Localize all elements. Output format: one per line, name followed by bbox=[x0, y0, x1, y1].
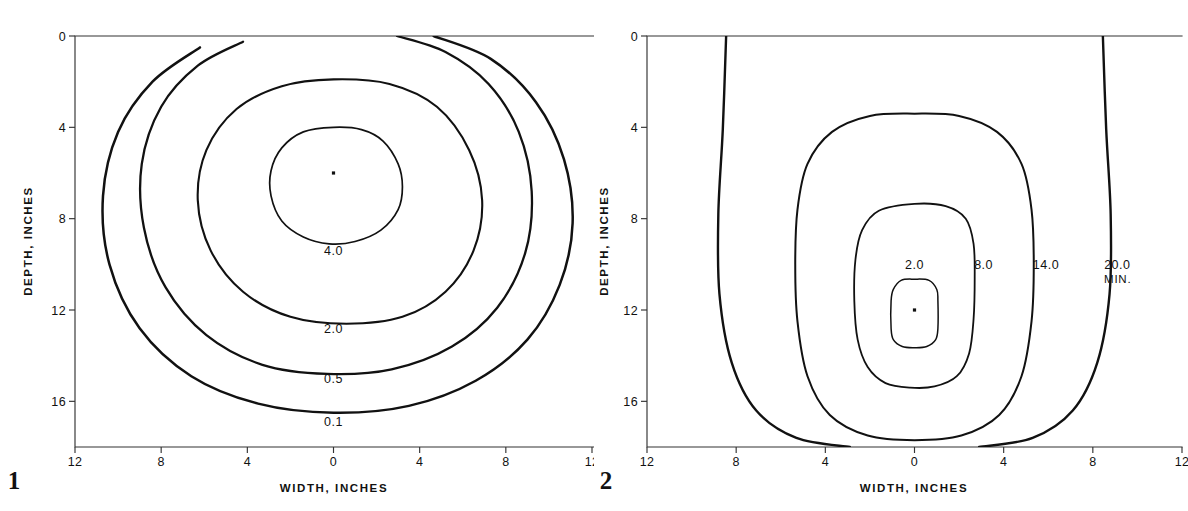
panel-1-center-marker bbox=[332, 171, 335, 174]
panel-2-x-axis-title: WIDTH, INCHES bbox=[860, 482, 968, 494]
panel-1-contours bbox=[103, 36, 573, 413]
panel-1-x-ticks bbox=[75, 447, 592, 453]
contour-label-8.0: 8.0 bbox=[974, 258, 993, 272]
panel-2-y-ticks bbox=[641, 36, 647, 401]
p1-x-tick-label: 12 bbox=[585, 455, 594, 469]
p1-x-tick-label: 4 bbox=[244, 455, 251, 469]
p2-x-tick-label: 8 bbox=[732, 455, 739, 469]
panel-1-y-ticks bbox=[69, 36, 75, 401]
p2-x-tick-label: 4 bbox=[822, 455, 829, 469]
panel-1-x-axis-title: WIDTH, INCHES bbox=[280, 482, 388, 494]
panel-2-x-tick-labels: 128404812 bbox=[640, 455, 1188, 469]
p1-y-tick-label: 8 bbox=[59, 212, 66, 226]
p2-y-tick-label: 16 bbox=[623, 395, 638, 409]
p1-x-tick-label: 8 bbox=[157, 455, 164, 469]
contour-level-2.0 bbox=[891, 279, 938, 348]
contour-level-14.0 bbox=[795, 114, 1034, 441]
panel-2-center-marker bbox=[913, 308, 916, 311]
p1-y-tick-label: 0 bbox=[59, 30, 66, 44]
contour-label-0.5: 0.5 bbox=[324, 372, 343, 386]
panel-2-x-ticks bbox=[647, 447, 1182, 453]
panel-2-axis-lines bbox=[647, 36, 1182, 447]
panel-1-x-tick-labels: 128404812 bbox=[68, 455, 594, 469]
panel-2-axes bbox=[641, 36, 1182, 453]
contour-panel-1: 4.02.00.50.1 128404812 0481216 WIDTH, IN… bbox=[0, 0, 594, 511]
contour-level-20.0 bbox=[979, 36, 1111, 447]
p2-x-tick-label: 12 bbox=[1175, 455, 1188, 469]
contour-level-0.1 bbox=[103, 36, 573, 413]
p1-x-tick-label: 0 bbox=[330, 455, 337, 469]
contour-label-0.1: 0.1 bbox=[324, 415, 343, 429]
panel-2-number: 2 bbox=[600, 467, 613, 494]
panel-1-contour-labels: 4.02.00.50.1 bbox=[324, 244, 343, 429]
contour-level-2.0 bbox=[198, 79, 483, 323]
p1-x-tick-label: 8 bbox=[502, 455, 509, 469]
p2-y-tick-label: 8 bbox=[631, 212, 638, 226]
contour-level-4.0 bbox=[270, 127, 403, 244]
contour-level-8.0 bbox=[854, 204, 975, 389]
contour-label-2.0: 2.0 bbox=[905, 258, 924, 272]
p1-y-tick-label: 12 bbox=[51, 304, 66, 318]
panel-1-y-axis-title: DEPTH, INCHES bbox=[22, 186, 34, 296]
center-point-marker bbox=[913, 308, 916, 311]
p2-x-tick-label: 12 bbox=[640, 455, 655, 469]
p1-x-tick-label: 4 bbox=[416, 455, 423, 469]
p1-y-tick-label: 16 bbox=[51, 395, 66, 409]
panel-1-svg: 4.02.00.50.1 128404812 0481216 WIDTH, IN… bbox=[0, 0, 594, 511]
p2-x-tick-label: 4 bbox=[1000, 455, 1007, 469]
panel-2-contour-labels: 2.08.014.020.0 bbox=[905, 258, 1130, 272]
panel-2-y-tick-labels: 0481216 bbox=[623, 30, 638, 409]
p2-y-tick-label: 0 bbox=[631, 30, 638, 44]
panel-2-y-axis-title: DEPTH, INCHES bbox=[598, 186, 610, 296]
panel-2-contours bbox=[718, 36, 1111, 447]
p1-y-tick-label: 4 bbox=[59, 121, 66, 135]
contour-label-14.0: 14.0 bbox=[1033, 258, 1059, 272]
p2-x-tick-label: 0 bbox=[911, 455, 918, 469]
contour-level-20.0 bbox=[718, 36, 850, 447]
panel-1-y-tick-labels: 0481216 bbox=[51, 30, 66, 409]
p2-x-tick-label: 8 bbox=[1089, 455, 1096, 469]
center-point-marker bbox=[332, 171, 335, 174]
panel-2-unit-suffix: MIN. bbox=[1104, 273, 1131, 285]
panel-2-svg: 2.08.014.020.0 128404812 0481216 MIN. WI… bbox=[594, 0, 1188, 511]
contour-label-20.0: 20.0 bbox=[1104, 258, 1130, 272]
contour-label-2.0: 2.0 bbox=[324, 322, 343, 336]
p1-x-tick-label: 12 bbox=[68, 455, 83, 469]
p2-y-tick-label: 12 bbox=[623, 304, 638, 318]
panel-1-number: 1 bbox=[8, 467, 21, 494]
contour-panel-2: 2.08.014.020.0 128404812 0481216 MIN. WI… bbox=[594, 0, 1188, 511]
figure-root: 4.02.00.50.1 128404812 0481216 WIDTH, IN… bbox=[0, 0, 1188, 511]
contour-label-4.0: 4.0 bbox=[324, 244, 343, 258]
p2-y-tick-label: 4 bbox=[631, 121, 638, 135]
